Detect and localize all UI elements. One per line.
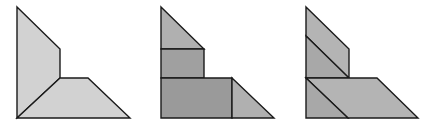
shape-1-whole [17, 7, 130, 118]
shape-2-right-triangle [232, 78, 274, 118]
shape-2-middle-rectangle [161, 49, 204, 78]
partition-diagram [0, 0, 432, 126]
shape-2-bottom-rectangle [161, 78, 232, 118]
shape-2-top-triangle [161, 7, 204, 49]
shape-2-rect-partition [161, 7, 274, 118]
shape-3-diagonal-partition [306, 7, 418, 118]
